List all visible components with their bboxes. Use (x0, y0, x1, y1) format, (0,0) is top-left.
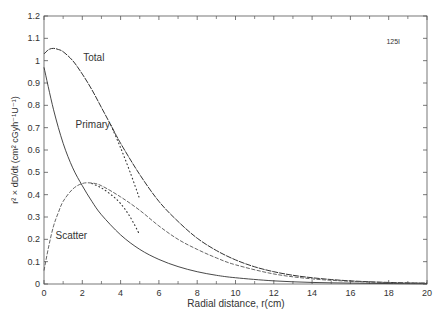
y-tick-label: 1.2 (27, 11, 40, 21)
x-tick-label: 16 (345, 288, 355, 298)
x-tick-label: 14 (307, 288, 317, 298)
series-total-dotted-fit (111, 125, 140, 199)
x-tick-label: 6 (156, 288, 161, 298)
y-tick-label: 0.8 (27, 100, 40, 110)
y-tick-label: 1.1 (27, 33, 40, 43)
x-tick-label: 2 (80, 288, 85, 298)
y-tick-label: 1 (35, 56, 40, 66)
curve-label-scatter: Scatter (55, 230, 87, 241)
series-scatter-dotted-fit (92, 184, 140, 235)
x-tick-label: 8 (195, 288, 200, 298)
x-tick-label: 18 (384, 288, 394, 298)
curve-label-total: Total (83, 52, 104, 63)
x-tick-label: 20 (422, 288, 432, 298)
y-tick-label: 0.1 (27, 257, 40, 267)
annotation-isotope: 125I (386, 38, 400, 45)
series-scatter (44, 183, 427, 284)
y-tick-label: 0.7 (27, 123, 40, 133)
x-tick-label: 4 (118, 288, 123, 298)
y-tick-label: 0.4 (27, 190, 40, 200)
curve-label-primary: Primary (76, 119, 110, 130)
series-primary (44, 67, 427, 283)
y-axis-label: r² × dD/dt (cm² cGyh⁻¹U⁻¹) (10, 96, 20, 203)
y-tick-label: 0.9 (27, 78, 40, 88)
series-total (44, 48, 427, 283)
y-tick-label: 0.6 (27, 145, 40, 155)
curves (44, 48, 427, 283)
y-tick-label: 0.2 (27, 234, 40, 244)
x-tick-label: 12 (269, 288, 279, 298)
x-tick-label: 0 (41, 288, 46, 298)
x-tick-label: 10 (230, 288, 240, 298)
y-tick-label: 0.5 (27, 167, 40, 177)
x-axis-label: Radial distance, r(cm) (187, 298, 284, 309)
y-tick-label: 0 (35, 279, 40, 289)
y-tick-label: 0.3 (27, 212, 40, 222)
curve-labels: TotalPrimaryScatter (55, 52, 110, 242)
chart: 0246810121416182000.10.20.30.40.50.60.70… (0, 0, 441, 318)
